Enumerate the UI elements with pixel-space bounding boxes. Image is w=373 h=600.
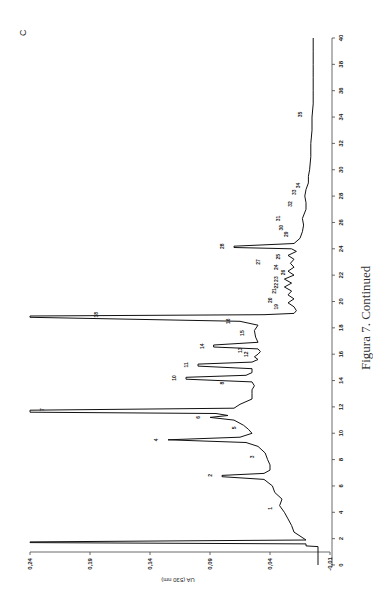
x-tick-label: 12 <box>338 403 344 410</box>
y-tick-label: 0,04 <box>267 558 273 570</box>
peak-label: 25 <box>275 254 281 260</box>
peak-label: 34 <box>295 183 301 189</box>
peak-label: 1 <box>267 507 273 510</box>
x-tick-label: 16 <box>338 350 344 357</box>
peak-label: 7 <box>39 408 45 411</box>
chromatogram-figure: 02468101214161820222426283032343638400,2… <box>0 0 373 600</box>
peak-label: 13 <box>237 347 243 353</box>
x-tick-label: 36 <box>338 87 344 94</box>
y-tick-label: 0,19 <box>87 558 93 570</box>
peak-label: 19 <box>273 304 279 310</box>
peak-label: 14 <box>199 343 205 349</box>
peak-label: 30 <box>278 225 284 231</box>
y-tick-label: 0,09 <box>207 558 213 570</box>
peak-label: 24 <box>273 264 279 270</box>
peak-label: 2 <box>207 474 213 477</box>
x-tick-label: 10 <box>338 429 344 436</box>
y-axis-title: UA (530 nm) <box>161 577 195 583</box>
peak-label: 8 <box>219 382 225 385</box>
peak-label: 3 <box>249 455 255 458</box>
x-tick-label: 0 <box>338 563 344 567</box>
peak-label: 15 <box>239 330 245 336</box>
peak-label: 12 <box>243 351 249 357</box>
x-tick-label: 6 <box>338 484 344 488</box>
x-tick-label: 38 <box>338 60 344 67</box>
figure-caption: Figura 7. Continued <box>358 265 373 370</box>
x-tick-label: 26 <box>338 218 344 225</box>
peak-label: 26 <box>280 270 286 276</box>
x-tick-label: 34 <box>338 113 344 120</box>
peak-label: 31 <box>275 215 281 221</box>
y-tick-label: -0,01 <box>327 557 333 571</box>
peak-label: 11 <box>183 362 189 368</box>
peak-label: 29 <box>283 231 289 237</box>
y-tick-label: 0,14 <box>147 558 153 570</box>
x-tick-label: 8 <box>338 457 344 461</box>
peak-label: 32 <box>287 201 293 207</box>
x-tick-label: 22 <box>338 271 344 278</box>
x-tick-label: 20 <box>338 298 344 305</box>
peak-label: 10 <box>171 375 177 381</box>
peak-label: 23 <box>273 276 279 282</box>
peak-label: 20 <box>267 297 273 303</box>
peak-label: 4 <box>153 438 159 441</box>
x-tick-label: 18 <box>338 324 344 331</box>
x-tick-label: 14 <box>338 377 344 384</box>
panel-letter: C <box>18 29 28 36</box>
peak-label: 33 <box>291 189 297 195</box>
x-tick-label: 2 <box>338 536 344 540</box>
peak-label: 6 <box>195 416 201 419</box>
peak-label: 35 <box>297 111 303 117</box>
peak-label: 5 <box>231 426 237 429</box>
peak-label: 18 <box>93 312 99 318</box>
plot-area: 02468101214161820222426283032343638400,2… <box>27 34 344 571</box>
x-tick-label: 4 <box>338 510 344 514</box>
x-tick-label: 24 <box>338 245 344 252</box>
chromatogram-trace <box>30 38 318 565</box>
peak-label: 27 <box>255 259 261 265</box>
peak-label: 16 <box>225 318 231 324</box>
x-tick-label: 32 <box>338 139 344 146</box>
x-tick-label: 40 <box>338 34 344 41</box>
y-tick-label: 0,24 <box>27 558 33 570</box>
x-tick-label: 30 <box>338 166 344 173</box>
peak-label: 28 <box>219 243 225 249</box>
x-tick-label: 28 <box>338 192 344 199</box>
peak-label: 22 <box>273 283 279 289</box>
